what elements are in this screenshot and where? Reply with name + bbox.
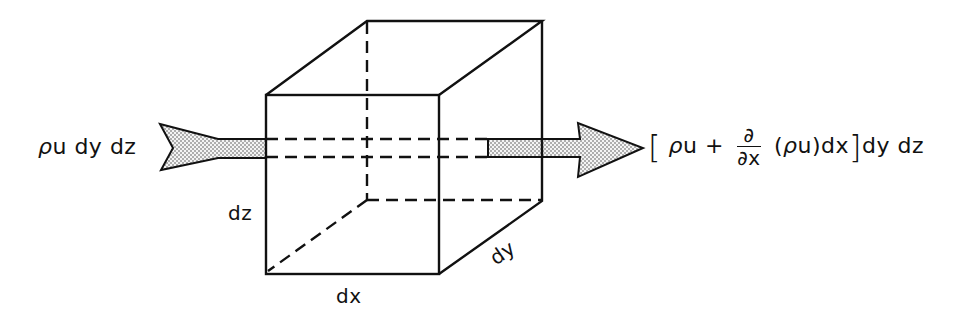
dx-label: dx <box>336 284 362 308</box>
rho-symbol: ρ <box>38 134 52 159</box>
inflow-label: ρu dy dz <box>38 134 136 159</box>
inflow-arrow <box>160 124 266 170</box>
outflow-arrow <box>488 123 643 177</box>
outflow-label: [ ρu + ∂ ∂x (ρu)dx]dy dz <box>648 124 924 169</box>
partial-derivative-fraction: ∂ ∂x <box>737 124 760 169</box>
dz-label: dz <box>228 201 252 225</box>
